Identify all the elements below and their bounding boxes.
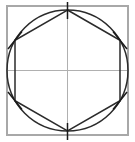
center-crosshair	[7, 6, 128, 135]
geometry-diagram: Regular hexagon inscribed in a circle wi…	[0, 0, 135, 142]
geometric-figure-container: Regular hexagon inscribed in a circle wi…	[0, 0, 135, 142]
